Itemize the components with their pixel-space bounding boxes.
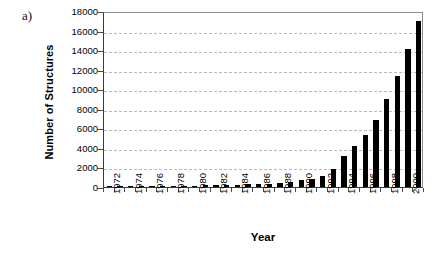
y-axis-tick-labels: 0200040006000800010000120001400016000180…: [52, 12, 98, 188]
y-tick-label: 10000: [52, 85, 98, 95]
y-tick-label: 0: [52, 183, 98, 193]
x-tick-label: 1972: [112, 173, 122, 194]
figure-panel: a) Number of Structures 0200040006000800…: [0, 0, 448, 254]
y-tick-label: 2000: [52, 164, 98, 174]
y-tick-label: 14000: [52, 46, 98, 56]
plot-area: [103, 12, 423, 188]
x-tick-label: 1992: [326, 173, 336, 194]
x-tick-label: 1998: [390, 173, 400, 194]
y-tick-label: 18000: [52, 7, 98, 17]
x-tick-label: 1994: [347, 173, 357, 194]
x-axis-title: Year: [103, 231, 423, 243]
x-tick-mark: [423, 188, 424, 192]
y-tick-label: 4000: [52, 144, 98, 154]
bar: [405, 49, 411, 187]
x-tick-label: 1984: [240, 173, 250, 194]
x-tick-label: 1988: [283, 173, 293, 194]
x-tick-label: 2000: [411, 173, 421, 194]
y-tick-label: 6000: [52, 125, 98, 135]
x-axis-tick-labels: 1972197419761978198019821984198619881990…: [103, 192, 423, 230]
y-tick-label: 8000: [52, 105, 98, 115]
bar: [395, 76, 401, 187]
x-tick-label: 1990: [304, 173, 314, 194]
x-tick-label: 1982: [219, 173, 229, 194]
x-tick-label: 1986: [262, 173, 272, 194]
x-tick-label: 1978: [176, 173, 186, 194]
x-tick-label: 1996: [368, 173, 378, 194]
x-tick-label: 1974: [134, 173, 144, 194]
bar: [416, 21, 422, 187]
x-tick-label: 1980: [198, 173, 208, 194]
panel-letter-label: a): [22, 8, 32, 24]
y-tick-label: 16000: [52, 27, 98, 37]
bar-series: [104, 13, 422, 187]
y-tick-label: 12000: [52, 66, 98, 76]
x-tick-label: 1976: [155, 173, 165, 194]
